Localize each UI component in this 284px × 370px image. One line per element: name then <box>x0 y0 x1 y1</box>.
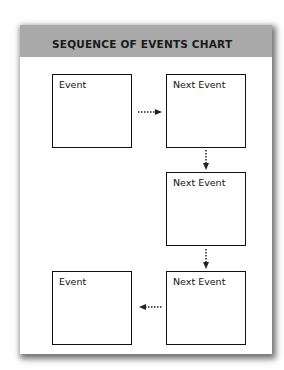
event-box-label: Event <box>59 79 86 90</box>
event-box-3: Next Event <box>166 172 246 246</box>
chart-title: SEQUENCE OF EVENTS CHART <box>52 38 232 50</box>
dotted-arrow-down-icon <box>202 248 210 270</box>
event-box-4: Next Event <box>166 271 246 345</box>
event-box-2: Next Event <box>166 74 246 148</box>
event-box-5: Event <box>52 271 132 345</box>
event-box-label: Next Event <box>173 276 225 287</box>
event-box-label: Event <box>59 276 86 287</box>
chart-header: SEQUENCE OF EVENTS CHART <box>20 25 272 57</box>
dotted-arrow-left-icon <box>138 303 164 311</box>
dotted-arrow-down-icon <box>202 149 210 171</box>
event-box-label: Next Event <box>173 177 225 188</box>
dotted-arrow-right-icon <box>137 108 163 116</box>
event-box-label: Next Event <box>173 79 225 90</box>
event-box-1: Event <box>52 74 132 148</box>
